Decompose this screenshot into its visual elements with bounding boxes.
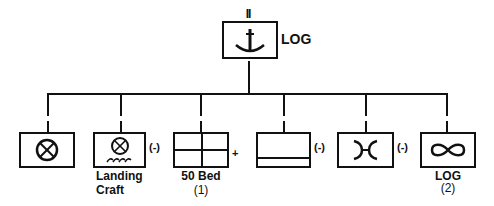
unit-box-2[interactable] bbox=[93, 132, 146, 168]
anchor-icon bbox=[222, 21, 278, 59]
unit-label-3: 50 Bed bbox=[173, 170, 229, 183]
bridge-icon bbox=[337, 132, 394, 168]
grid-horizontal bbox=[175, 149, 227, 151]
echelon-marker: II bbox=[238, 8, 258, 21]
trunk-line bbox=[248, 61, 250, 95]
hq-label: LOG bbox=[281, 33, 311, 46]
drop-line-4 bbox=[283, 93, 285, 116]
infinity-icon bbox=[420, 132, 476, 168]
wheel-water-icon bbox=[93, 132, 146, 168]
unit-modifier-2: (-) bbox=[149, 141, 160, 153]
unit-sublabel-3: (1) bbox=[173, 184, 229, 197]
horizontal-connector bbox=[47, 93, 447, 95]
unit-box-1[interactable] bbox=[19, 132, 75, 168]
drop-line-6 bbox=[446, 93, 448, 116]
wheel-icon bbox=[19, 132, 75, 168]
drop-line-2 bbox=[120, 93, 122, 116]
supply-bar bbox=[258, 157, 309, 159]
unit-modifier-4: (-) bbox=[314, 141, 325, 153]
hq-box[interactable] bbox=[222, 21, 278, 59]
unit-sublabel-6: (2) bbox=[420, 182, 476, 195]
unit-modifier-5: (-) bbox=[397, 141, 408, 153]
unit-label-2: Landing bbox=[96, 170, 143, 183]
unit-sublabel-2: Craft bbox=[96, 184, 124, 197]
drop-line-3 bbox=[200, 93, 202, 116]
unit-modifier-3: + bbox=[232, 147, 238, 159]
unit-box-5[interactable] bbox=[337, 132, 394, 168]
unit-box-4[interactable] bbox=[256, 132, 311, 168]
drop-line-5 bbox=[365, 93, 367, 116]
unit-box-3[interactable] bbox=[173, 132, 229, 168]
drop-line-1 bbox=[47, 93, 49, 116]
unit-box-6[interactable] bbox=[420, 132, 476, 168]
